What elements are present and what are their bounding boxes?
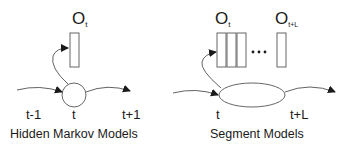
hmm-outgoing-arrow xyxy=(86,87,130,92)
segment-time-start: t xyxy=(216,108,220,121)
hmm-time-prev: t-1 xyxy=(26,108,41,121)
ellipsis-dot xyxy=(252,51,255,54)
observation-symbol: O xyxy=(72,9,85,28)
observation-symbol: O xyxy=(275,9,288,28)
observation-subscript: t xyxy=(85,20,87,29)
segment-observation-box-last xyxy=(277,33,286,67)
segment-observation-start-label: Ot xyxy=(215,10,230,29)
ellipsis-dot xyxy=(264,51,267,54)
hmm-time-current: t xyxy=(72,108,76,121)
segment-diagram xyxy=(173,33,335,107)
hmm-emission-arrow xyxy=(53,48,68,84)
hmm-observation-box xyxy=(70,33,79,67)
segment-observation-box-2 xyxy=(227,33,236,67)
hmm-diagram xyxy=(17,33,130,107)
ellipsis-dot xyxy=(258,51,261,54)
segment-observation-end-label: Ot+L xyxy=(275,10,298,28)
hmm-caption: Hidden Markov Models xyxy=(10,128,138,141)
segment-observation-box-3 xyxy=(237,33,246,67)
hmm-observation-label: Ot xyxy=(72,10,87,29)
hmm-incoming-arrow xyxy=(17,87,62,92)
segment-observation-box-1 xyxy=(217,33,226,67)
hmm-state-circle xyxy=(62,83,86,107)
observation-subscript: t+L xyxy=(288,21,298,28)
segment-incoming-arrow xyxy=(173,90,218,95)
segment-caption: Segment Models xyxy=(210,128,304,141)
segment-state-ellipse xyxy=(219,83,285,107)
hmm-time-next: t+1 xyxy=(122,108,140,121)
observation-symbol: O xyxy=(215,9,228,28)
observation-subscript: t xyxy=(228,20,230,29)
segment-outgoing-arrow xyxy=(285,87,335,92)
segment-time-end: t+L xyxy=(290,108,308,121)
